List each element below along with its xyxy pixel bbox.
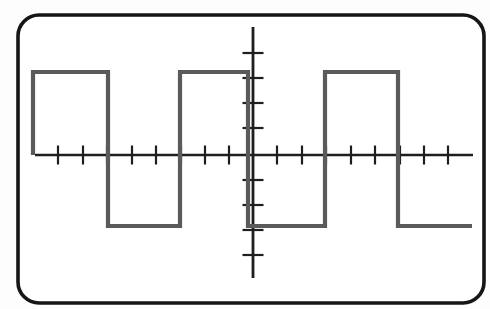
screen-bezel [18,15,484,303]
oscilloscope-figure [0,0,490,309]
oscilloscope-screen [0,0,490,309]
